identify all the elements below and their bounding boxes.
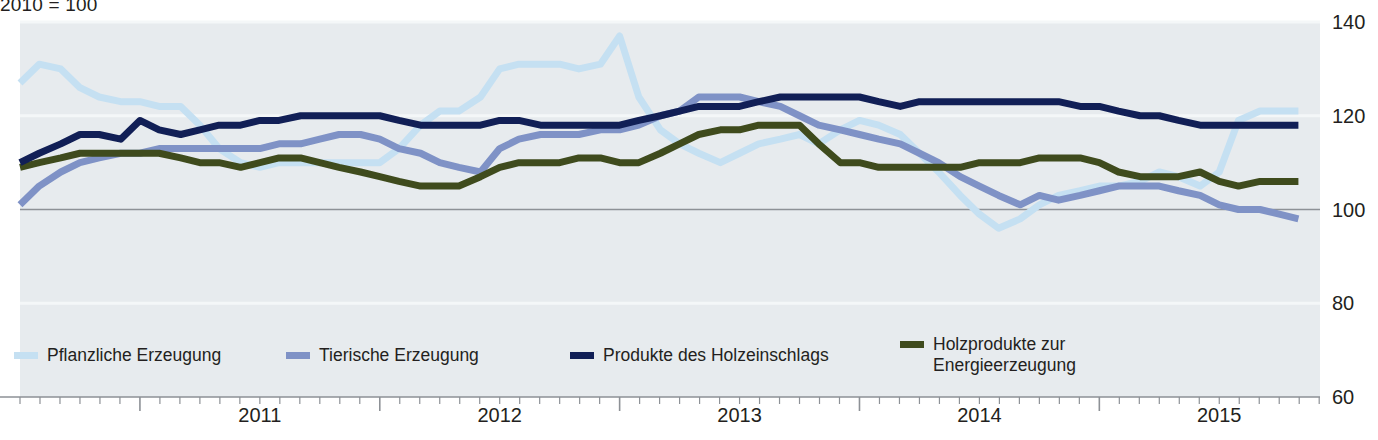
chart-legend: Pflanzliche ErzeugungTierische Erzeugung… [0,332,1300,384]
y-axis-tick-label: 100 [1332,198,1365,221]
series-paths [20,36,1298,228]
legend-color-swatch [286,352,310,359]
y-axis-tick-label: 140 [1332,11,1365,34]
legend-item[interactable]: Holzprodukte zur Energieerzeugung [900,334,1076,376]
legend-label: Produkte des Holzeinschlags [603,345,829,366]
legend-label: Pflanzliche Erzeugung [47,345,221,366]
x-axis-tick-label: 2014 [957,404,1002,427]
x-axis-ticks [0,397,1320,411]
x-axis-tick-label: 2011 [238,404,281,427]
legend-color-swatch [570,352,594,359]
x-axis-tick-label: 2012 [477,404,522,427]
legend-item[interactable]: Tierische Erzeugung [286,345,479,366]
legend-label: Holzprodukte zur Energieerzeugung [933,334,1076,376]
legend-color-swatch [900,341,924,348]
y-axis-tick-label: 60 [1332,386,1354,409]
x-axis-tick-label: 2013 [717,404,762,427]
y-axis-tick-label: 120 [1332,104,1365,127]
legend-color-swatch [14,352,38,359]
series-line [20,36,1298,228]
x-axis-tick-label: 2015 [1197,404,1242,427]
chart-page: 2010 = 100 1401201008060 201120122013201… [0,0,1378,440]
legend-label: Tierische Erzeugung [319,345,479,366]
y-axis-tick-label: 80 [1332,292,1354,315]
legend-item[interactable]: Pflanzliche Erzeugung [14,345,221,366]
legend-item[interactable]: Produkte des Holzeinschlags [570,345,829,366]
